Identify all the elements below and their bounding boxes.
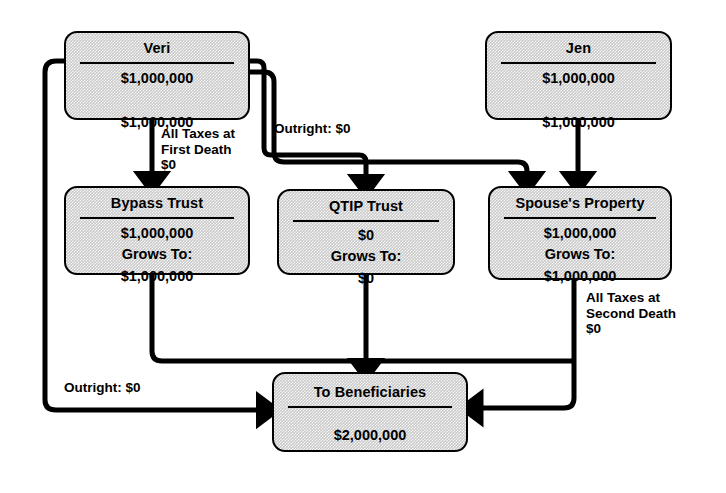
- node-veri-amount-bottom: $1,000,000: [66, 85, 248, 130]
- annotation-outright-top: Outright: $0: [274, 121, 414, 137]
- node-jen-title: Jen: [487, 33, 670, 56]
- estate-flow-diagram: Veri $1,000,000 $1,000,000 Jen $1,000,00…: [0, 0, 726, 493]
- connector-bypass-to-beneficiaries: [152, 275, 574, 361]
- node-bypass-trust-amount-bottom: $1,000,000: [66, 262, 248, 284]
- node-jen-amount-top: $1,000,000: [487, 64, 670, 86]
- node-jen[interactable]: Jen $1,000,000 $1,000,000: [485, 31, 672, 120]
- node-qtip-trust-grows-label: Grows To:: [279, 242, 453, 264]
- node-bypass-trust-grows-label: Grows To:: [66, 240, 248, 262]
- node-veri[interactable]: Veri $1,000,000 $1,000,000: [64, 31, 250, 120]
- node-spouses-property-grows-label: Grows To:: [490, 240, 670, 262]
- node-spouses-property-title: Spouse's Property: [490, 188, 670, 211]
- node-spouses-property[interactable]: Spouse's Property $1,000,000 Grows To: $…: [488, 186, 672, 280]
- node-bypass-trust[interactable]: Bypass Trust $1,000,000 Grows To: $1,000…: [64, 186, 250, 275]
- node-qtip-trust-amount-bottom: $0: [279, 264, 453, 286]
- annotation-all-taxes-first-death: All Taxes at First Death $0: [161, 126, 276, 173]
- node-qtip-trust[interactable]: QTIP Trust $0 Grows To: $0: [277, 189, 455, 275]
- annotation-all-taxes-second-death: All Taxes at Second Death $0: [586, 290, 721, 337]
- node-qtip-trust-amount-top: $0: [279, 222, 453, 243]
- node-veri-amount-top: $1,000,000: [66, 64, 248, 86]
- node-veri-title: Veri: [66, 33, 248, 56]
- node-to-beneficiaries-amount: $2,000,000: [274, 408, 466, 443]
- node-jen-amount-bottom: $1,000,000: [487, 85, 670, 130]
- node-spouses-property-amount-top: $1,000,000: [490, 219, 670, 241]
- node-to-beneficiaries[interactable]: To Beneficiaries $2,000,000: [272, 372, 468, 452]
- node-bypass-trust-title: Bypass Trust: [66, 188, 248, 211]
- node-qtip-trust-title: QTIP Trust: [279, 191, 453, 214]
- node-spouses-property-amount-bottom: $1,000,000: [490, 262, 670, 284]
- node-bypass-trust-amount-top: $1,000,000: [66, 219, 248, 241]
- annotation-outright-bottom: Outright: $0: [64, 380, 204, 396]
- connector-spouse-to-beneficiaries: [478, 280, 574, 408]
- node-to-beneficiaries-title: To Beneficiaries: [274, 374, 466, 400]
